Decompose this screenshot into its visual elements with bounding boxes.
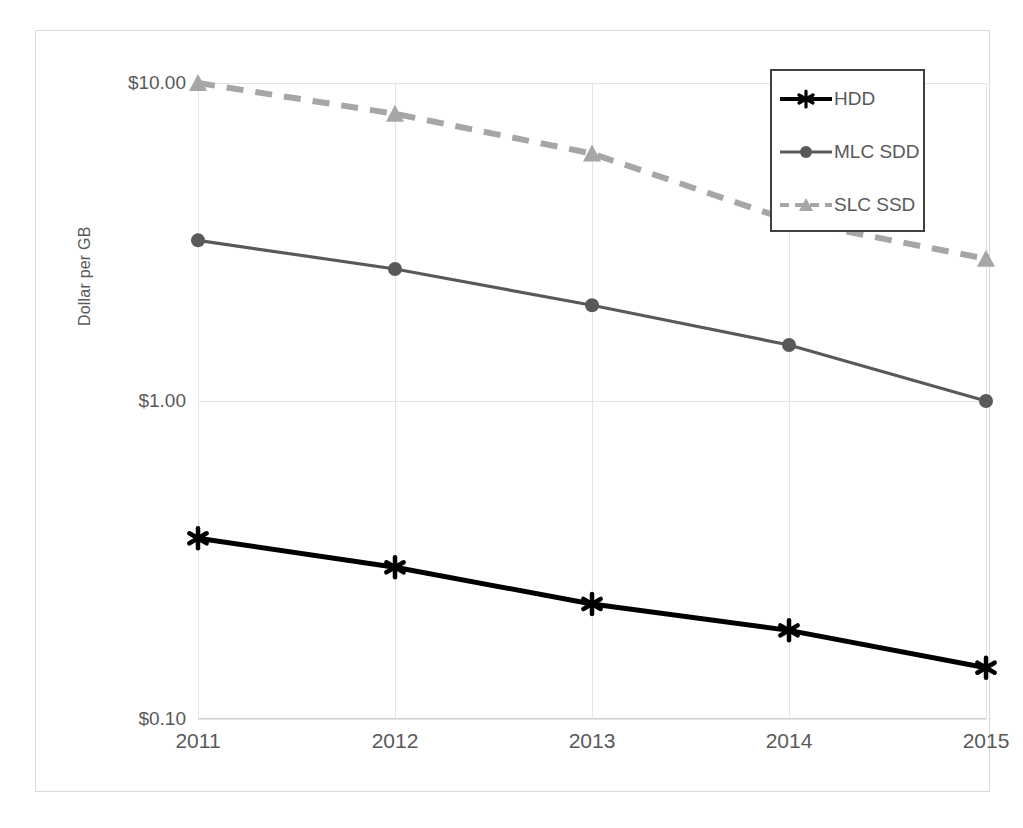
legend-item-mlc-sdd[interactable]: MLC SDD — [780, 138, 925, 166]
x-axis-tick-label: 2013 — [569, 729, 616, 753]
legend: HDD MLC SDD SLC SSD — [770, 69, 925, 232]
legend-swatch-hdd — [780, 88, 832, 110]
gridline-horizontal — [198, 719, 986, 720]
legend-label-mlc-sdd: MLC SDD — [834, 141, 920, 163]
legend-item-hdd[interactable]: HDD — [780, 85, 925, 113]
chart-figure: Dollar per GB $10.00$1.00$0.10 HDD — [35, 30, 990, 792]
series-hdd — [189, 528, 994, 677]
x-axis-tick-label: 2015 — [963, 729, 1010, 753]
legend-label-slc-ssd: SLC SSD — [834, 194, 915, 216]
y-axis-tick-label: $10.00 — [66, 72, 186, 94]
x-axis-tick-label: 2012 — [372, 729, 419, 753]
x-axis-tick-label: 2014 — [766, 729, 813, 753]
legend-label-hdd: HDD — [834, 88, 875, 110]
y-axis-tick-label: $0.10 — [66, 708, 186, 730]
x-axis-tick-label: 2011 — [175, 729, 220, 753]
y-axis-tick-labels: $10.00$1.00$0.10 — [36, 31, 186, 791]
legend-swatch-slc-ssd — [780, 194, 832, 216]
y-axis-tick-label: $1.00 — [66, 390, 186, 412]
legend-swatch-mlc-sdd — [780, 141, 832, 163]
series-mlc-sdd — [191, 233, 993, 408]
legend-item-slc-ssd[interactable]: SLC SSD — [780, 191, 925, 219]
